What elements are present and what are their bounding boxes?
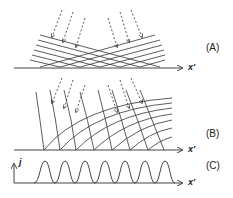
panel-label-a: (A) bbox=[206, 42, 219, 53]
panel-a bbox=[30, 10, 165, 67]
y-axis-label-c: j bbox=[19, 157, 22, 167]
diagram-canvas bbox=[0, 0, 233, 198]
panel-label-b: (B) bbox=[206, 128, 219, 139]
panel-b bbox=[36, 78, 172, 150]
axis-label-b: x' bbox=[188, 144, 195, 154]
j-profile-curve bbox=[34, 161, 175, 183]
panel-label-c: (C) bbox=[206, 160, 220, 171]
axis-label-a: x' bbox=[188, 62, 195, 72]
axis-label-c: x' bbox=[188, 177, 195, 187]
